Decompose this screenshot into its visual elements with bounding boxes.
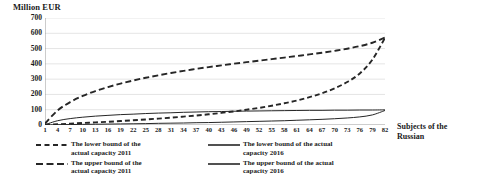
- legend-swatch: [208, 140, 240, 150]
- x-axis-tick-label: 40: [205, 127, 212, 134]
- y-axis-tick-label: 600: [18, 30, 42, 38]
- x-axis-tick-label: 25: [142, 127, 149, 134]
- y-axis-tick-label: 500: [18, 45, 42, 53]
- x-axis-tick-label: 55: [268, 127, 275, 134]
- legend-entry[interactable]: The upper bound of the actual capacity 2…: [208, 159, 468, 176]
- x-axis-tick-label: 67: [319, 127, 326, 134]
- legend-entry[interactable]: The upper bound of the actual capacity 2…: [36, 159, 206, 176]
- y-axis-tick-label: 700: [18, 14, 42, 22]
- y-axis-tick-label: 300: [18, 75, 42, 83]
- axis-lines: [45, 18, 385, 125]
- legend-label: The lower bound of the actual capacity 2…: [71, 140, 141, 158]
- legend-label: The lower bound of the actual capacity 2…: [243, 140, 333, 158]
- y-axis-tick-label: 0: [18, 121, 42, 129]
- chart-figure: Million EUR 7006005004003002001000 14710…: [0, 0, 487, 175]
- legend-entry[interactable]: The lower bound of the actual capacity 2…: [208, 140, 468, 158]
- x-axis-tick-label: 76: [357, 127, 364, 134]
- x-axis-tick-label: 13: [92, 127, 99, 134]
- y-axis-tick-label: 100: [18, 106, 42, 114]
- x-axis-tick-label: 22: [130, 127, 137, 134]
- x-axis-tick-label: 34: [180, 127, 187, 134]
- plot-area: [45, 18, 385, 125]
- chart-legend: The lower bound of the actual capacity 2…: [36, 140, 476, 174]
- x-axis-tick-label: 46: [231, 127, 238, 134]
- legend-swatch: [208, 159, 240, 169]
- legend-column-left: The lower bound of the actual capacity 2…: [36, 140, 206, 175]
- gridlines: [45, 18, 385, 110]
- x-axis-tick-label: 79: [369, 127, 376, 134]
- legend-label: The upper bound of the actual capacity 2…: [243, 159, 334, 176]
- x-axis-tick-label: 52: [256, 127, 263, 134]
- y-axis-tick-labels: 7006005004003002001000: [18, 18, 42, 125]
- x-axis-tick-label: 49: [243, 127, 250, 134]
- x-axis-tick-label: 1: [43, 127, 46, 134]
- y-axis-title: Million EUR: [13, 2, 61, 12]
- x-axis-tick-label: 58: [281, 127, 288, 134]
- x-axis-tick-label: 64: [306, 127, 313, 134]
- x-axis-tick-label: 61: [294, 127, 301, 134]
- x-axis-tick-label: 37: [193, 127, 200, 134]
- y-axis-tick-label: 400: [18, 60, 42, 68]
- x-axis-tick-label: 4: [56, 127, 59, 134]
- legend-entry[interactable]: The lower bound of the actual capacity 2…: [36, 140, 206, 158]
- x-axis-tick-label: 31: [168, 127, 175, 134]
- legend-column-right: The lower bound of the actual capacity 2…: [208, 140, 468, 175]
- y-axis-tick-label: 200: [18, 91, 42, 99]
- x-axis-tick-label: 16: [105, 127, 112, 134]
- series-lines: [45, 38, 385, 125]
- chart-plot-svg: [45, 18, 385, 125]
- legend-swatch: [36, 140, 68, 150]
- x-axis-title: Subjects of the Russian: [397, 122, 485, 142]
- x-axis-tick-label: 73: [344, 127, 351, 134]
- x-axis-tick-label: 28: [155, 127, 162, 134]
- x-axis-tick-label: 82: [382, 127, 389, 134]
- x-axis-tick-label: 43: [218, 127, 225, 134]
- x-axis-tick-label: 10: [80, 127, 87, 134]
- x-axis-tick-label: 70: [331, 127, 338, 134]
- x-axis-tick-label: 7: [69, 127, 72, 134]
- x-axis-tick-label: 19: [117, 127, 124, 134]
- x-axis-tick-labels: 1471013161922252831343740434649525558616…: [45, 127, 385, 138]
- legend-swatch: [36, 159, 68, 169]
- legend-label: The upper bound of the actual capacity 2…: [71, 159, 142, 176]
- x-axis-title-line1: Subjects of the: [397, 122, 485, 132]
